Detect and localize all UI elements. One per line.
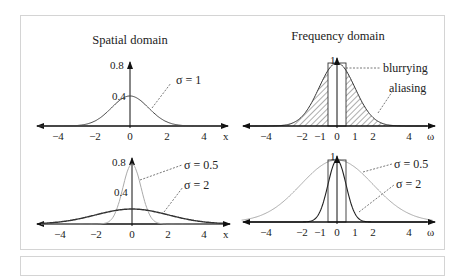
- aliasing-label: aliasing: [389, 81, 426, 95]
- x-tick: 4: [201, 228, 207, 240]
- x-tick: 1: [352, 226, 358, 238]
- x-tick: −2: [296, 130, 308, 142]
- frequency-bottom-plot: σ = 0.5 σ = 2 1 −4 −2 −1 0 1 2 4 ω: [242, 150, 435, 238]
- x-tick: −2: [89, 130, 101, 142]
- omega-axis-label: ω: [427, 226, 434, 238]
- sigma-0.5-label: σ = 0.5: [394, 157, 428, 171]
- y-tick: 1: [330, 150, 336, 162]
- x-axis-label: x: [223, 228, 229, 240]
- y-tick: 0.8: [112, 156, 126, 168]
- frequency-domain-title: Frequency domain: [291, 29, 385, 43]
- sigma-2-label: σ = 2: [184, 178, 209, 192]
- x-tick: 2: [165, 228, 171, 240]
- spatial-bottom-plot: σ = 0.5 σ = 2 0.8 0.4 −4 −2 0 2 4 x: [37, 156, 230, 240]
- x-tick: 4: [406, 226, 412, 238]
- omega-axis-label: ω: [427, 130, 434, 142]
- blurrying-label: blurrying: [383, 61, 428, 75]
- sigma-0.5-label: σ = 0.5: [184, 158, 218, 172]
- sigma-2-label: σ = 2: [396, 177, 421, 191]
- x-tick: 0: [129, 228, 135, 240]
- spatial-domain-title: Spatial domain: [92, 33, 168, 47]
- y-tick: 0.4: [112, 90, 126, 102]
- x-tick: 0: [334, 226, 340, 238]
- x-tick: −4: [260, 226, 272, 238]
- x-tick: 2: [164, 130, 170, 142]
- x-tick: 0: [127, 130, 133, 142]
- frequency-top-plot: blurrying aliasing 1 −4 −2 −1 0 1 2 4 ω: [243, 54, 435, 142]
- x-tick: 2: [370, 226, 376, 238]
- x-tick: 0: [334, 130, 340, 142]
- x-tick: −1: [314, 130, 326, 142]
- spatial-top-plot: σ = 1 0.8 0.4 −4 −2 0 2 4 x: [37, 59, 229, 142]
- x-tick: −4: [54, 228, 66, 240]
- x-tick: 4: [406, 130, 412, 142]
- y-tick: 1: [330, 54, 336, 66]
- x-tick: −4: [52, 130, 64, 142]
- x-tick: −4: [260, 130, 272, 142]
- x-axis-label: x: [223, 130, 229, 142]
- x-tick: 4: [201, 130, 207, 142]
- y-tick: 0.8: [110, 59, 124, 71]
- x-tick: 2: [370, 130, 376, 142]
- x-tick: 1: [352, 130, 358, 142]
- x-tick: −2: [90, 228, 102, 240]
- y-tick: 0.4: [114, 186, 128, 198]
- x-tick: −2: [296, 226, 308, 238]
- sigma-1-label: σ = 1: [176, 73, 201, 87]
- x-tick: −1: [314, 226, 326, 238]
